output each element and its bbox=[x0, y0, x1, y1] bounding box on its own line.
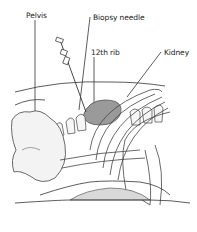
body-contour bbox=[15, 82, 165, 105]
kidney-biopsy-diagram: Pelvis Biopsy needle 12th rib Kidney bbox=[0, 0, 197, 232]
label-biopsy-needle: Biopsy needle bbox=[93, 14, 144, 22]
label-12th-rib: 12th rib bbox=[91, 49, 120, 57]
biopsy-needle-instrument bbox=[55, 37, 86, 112]
illustration bbox=[0, 0, 197, 232]
support-pad bbox=[70, 188, 150, 200]
pelvis-bone bbox=[12, 111, 66, 182]
label-kidney: Kidney bbox=[164, 49, 189, 57]
kidney-leader bbox=[127, 52, 161, 97]
label-pelvis: Pelvis bbox=[26, 12, 47, 20]
